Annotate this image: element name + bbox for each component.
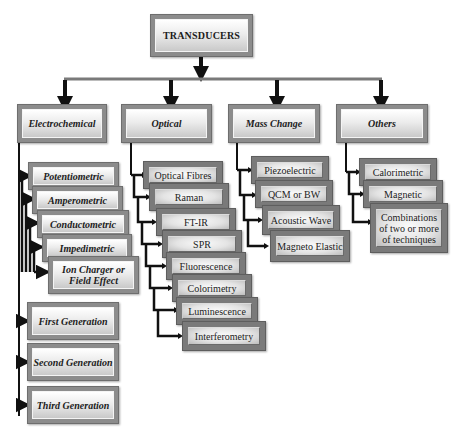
item-second-generation: Second Generation [27, 343, 119, 381]
item-label: Acoustic Wave [268, 211, 334, 229]
category-optical: Optical [121, 104, 212, 143]
item-label: FT-IR [162, 214, 230, 230]
item-raman: Raman [149, 183, 229, 211]
item-label: First Generation [32, 307, 114, 335]
category-mass-change: Mass Change [228, 104, 320, 143]
item-ion-charger: Ion Charger or Field Effect [48, 256, 139, 294]
item-label: Third Generation [32, 391, 114, 419]
root-label: TRANSDUCERS [155, 19, 248, 52]
item-label: Colorimetry [178, 280, 246, 296]
category-label: Mass Change [233, 109, 315, 138]
item-first-generation: First Generation [27, 302, 119, 340]
category-label: Optical [126, 109, 207, 138]
item-label: Potentiometric [33, 167, 114, 185]
item-label: Piezoelectric [257, 162, 323, 178]
item-label: Raman [155, 189, 223, 205]
item-magneto-elastic: Magneto Elastic [270, 230, 350, 262]
item-interferometry: Interferometry [182, 321, 266, 351]
category-electrochemical: Electrochemical [17, 104, 107, 143]
item-label: Optical Fibres [149, 167, 217, 183]
category-label: Others [341, 109, 423, 138]
item-label: Combinations of two or more of technique… [376, 209, 442, 247]
item-third-generation: Third Generation [27, 386, 119, 424]
transducers-diagram: TRANSDUCERS Electrochemical Optical Mass… [0, 0, 462, 436]
category-label: Electrochemical [22, 109, 102, 138]
category-others: Others [336, 104, 428, 143]
item-label: Impedimetric [47, 239, 127, 257]
item-label: Interferometry [188, 327, 260, 345]
item-label: Calorimetric [365, 164, 431, 180]
item-label: Luminescence [182, 303, 252, 319]
item-qcm-or-bw: QCM or BW [255, 180, 333, 208]
item-label: Amperometric [37, 191, 118, 209]
root-node: TRANSDUCERS [150, 14, 253, 57]
item-label: Conductometric [42, 215, 124, 233]
item-label: QCM or BW [261, 186, 327, 202]
item-label: Magneto Elastic [276, 236, 344, 256]
item-label: SPR [168, 236, 236, 252]
item-label: Second Generation [32, 348, 114, 376]
item-label: Fluorescence [172, 258, 240, 274]
item-combinations: Combinations of two or more of technique… [370, 203, 448, 253]
item-label: Magnetic [369, 186, 437, 202]
item-label: Ion Charger or Field Effect [53, 261, 134, 289]
